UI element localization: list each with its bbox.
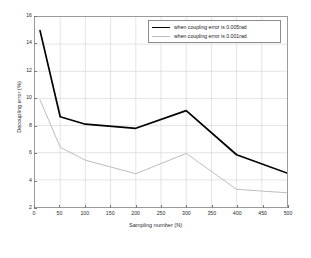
y-tick-label-8: 8 [29, 123, 32, 128]
x-tick-label-350: 350 [207, 211, 216, 216]
y-tick-mark-6 [34, 153, 37, 154]
y-tick-mark-14 [34, 43, 37, 44]
y-tick-label-12: 12 [26, 68, 32, 73]
x-tick-label-400: 400 [233, 211, 242, 216]
x-axis-label: Sampling number (N) [0, 222, 311, 228]
plot-area: when coupling error is 0.005rad when cou… [34, 16, 288, 208]
x-tick-label-150: 150 [106, 211, 115, 216]
x-tick-label-500: 500 [284, 211, 293, 216]
chart-figure: when coupling error is 0.005rad when cou… [0, 0, 311, 258]
y-tick-mark-8 [34, 126, 37, 127]
x-tick-mark-500 [288, 205, 289, 208]
x-tick-mark-150 [110, 205, 111, 208]
series-line-1 [40, 100, 287, 193]
x-tick-mark-0 [34, 205, 35, 208]
x-tick-mark-350 [212, 205, 213, 208]
legend-item-series-0: when coupling error is 0.005rad [152, 23, 277, 32]
x-tick-label-300: 300 [182, 211, 191, 216]
x-tick-label-100: 100 [80, 211, 89, 216]
y-axis-label: Decoupling error (%) [16, 47, 22, 167]
y-tick-label-6: 6 [29, 151, 32, 156]
x-tick-mark-250 [161, 205, 162, 208]
legend-label-series-0: when coupling error is 0.005rad [174, 25, 247, 30]
y-tick-label-4: 4 [29, 178, 32, 183]
x-tick-mark-100 [85, 205, 86, 208]
y-tick-mark-2 [34, 208, 37, 209]
x-tick-label-50: 50 [57, 211, 63, 216]
legend-item-series-1: when coupling error is 0.001rad [152, 32, 277, 41]
y-tick-mark-4 [34, 181, 37, 182]
legend-swatch-series-0 [152, 27, 170, 28]
x-tick-label-450: 450 [258, 211, 267, 216]
y-tick-label-10: 10 [26, 96, 32, 101]
x-tick-label-250: 250 [157, 211, 166, 216]
legend-swatch-series-1 [152, 36, 170, 37]
y-tick-mark-12 [34, 71, 37, 72]
x-tick-mark-400 [237, 205, 238, 208]
y-tick-label-14: 14 [26, 41, 32, 46]
legend-label-series-1: when coupling error is 0.001rad [174, 34, 247, 39]
x-tick-label-200: 200 [131, 211, 140, 216]
series-layer [35, 17, 287, 207]
x-tick-mark-50 [59, 205, 60, 208]
x-tick-mark-450 [263, 205, 264, 208]
series-line-0 [40, 31, 287, 174]
x-tick-label-0: 0 [33, 211, 36, 216]
chart-legend: when coupling error is 0.005rad when cou… [148, 20, 281, 43]
x-tick-mark-300 [186, 205, 187, 208]
y-tick-mark-16 [34, 16, 37, 17]
y-tick-mark-10 [34, 98, 37, 99]
x-tick-mark-200 [136, 205, 137, 208]
y-tick-label-16: 16 [26, 13, 32, 18]
